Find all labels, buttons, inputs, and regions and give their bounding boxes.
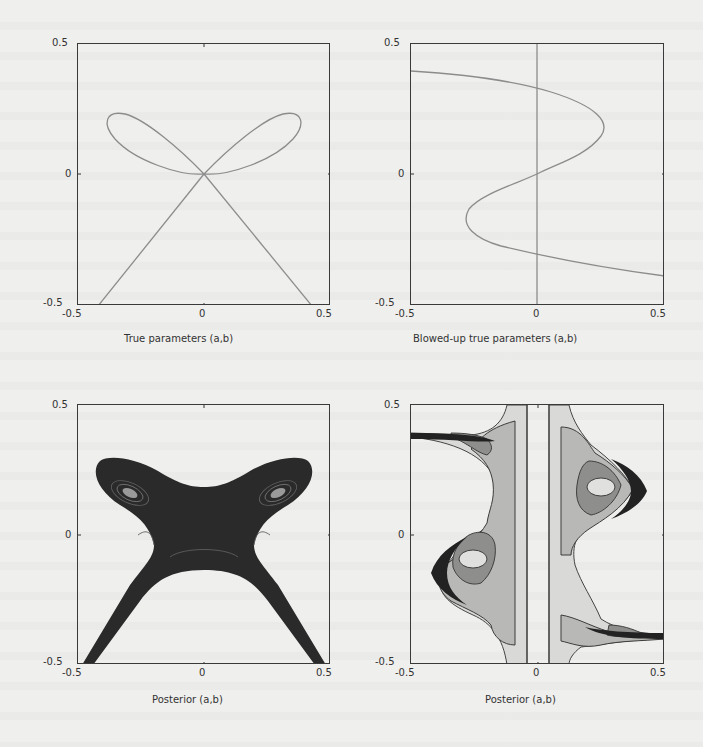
y-tick-bottom: -0.5 xyxy=(43,657,63,667)
posterior-blowed-up-contour xyxy=(411,405,664,664)
plot-area-true-parameters xyxy=(77,43,330,305)
y-tick-bottom: -0.5 xyxy=(375,298,395,308)
x-tick-left: -0.5 xyxy=(395,668,415,678)
y-tick-mid: 0 xyxy=(398,530,404,540)
x-tick-left: -0.5 xyxy=(62,309,82,319)
x-axis-label: Posterior (a,b) xyxy=(485,694,556,705)
plot-area-posterior xyxy=(77,404,330,664)
y-tick-top: 0.5 xyxy=(384,400,400,410)
x-axis-label: Posterior (a,b) xyxy=(152,694,223,705)
x-tick-mid: 0 xyxy=(199,668,205,678)
x-tick-left: -0.5 xyxy=(62,668,82,678)
x-tick-mid: 0 xyxy=(533,668,539,678)
y-tick-mid: 0 xyxy=(398,169,404,179)
y-tick-bottom: -0.5 xyxy=(43,298,63,308)
y-tick-mid: 0 xyxy=(65,530,71,540)
plot-area-blowed-up xyxy=(410,43,664,305)
x-tick-right: 0.5 xyxy=(316,309,332,319)
x-tick-mid: 0 xyxy=(199,309,205,319)
x-axis-label: Blowed-up true parameters (a,b) xyxy=(413,333,577,344)
y-tick-mid: 0 xyxy=(65,169,71,179)
y-tick-top: 0.5 xyxy=(384,38,400,48)
plot-area-posterior-blowed-up xyxy=(410,404,664,664)
posterior-contour xyxy=(78,405,330,664)
y-tick-top: 0.5 xyxy=(52,38,68,48)
x-tick-right: 0.5 xyxy=(650,668,666,678)
x-tick-left: -0.5 xyxy=(395,309,415,319)
y-tick-top: 0.5 xyxy=(52,400,68,410)
true-parameters-curve xyxy=(78,44,330,305)
x-tick-mid: 0 xyxy=(533,309,539,319)
x-tick-right: 0.5 xyxy=(650,309,666,319)
y-tick-bottom: -0.5 xyxy=(375,657,395,667)
x-tick-right: 0.5 xyxy=(316,668,332,678)
x-axis-label: True parameters (a,b) xyxy=(124,333,233,344)
blowed-up-curve xyxy=(411,44,664,305)
